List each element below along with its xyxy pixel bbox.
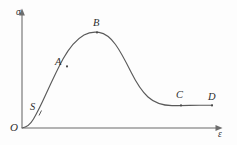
curve-point-label-s: S xyxy=(30,102,35,113)
y-axis-label-sigma: σ xyxy=(16,8,21,18)
point-marker-c xyxy=(180,104,182,106)
origin-label: O xyxy=(10,122,18,133)
curve-point-label-c: C xyxy=(176,90,183,101)
stress-strain-figure: σ ε O S A B C D xyxy=(0,0,237,145)
curve-point-label-d: D xyxy=(208,92,216,103)
x-axis-label-epsilon: ε xyxy=(218,130,222,140)
curve-point-label-b: B xyxy=(93,18,99,29)
plot-canvas xyxy=(0,0,237,145)
point-marker-b xyxy=(96,31,98,33)
point-marker-a xyxy=(66,65,68,67)
stress-strain-curve-path xyxy=(22,32,213,128)
point-marker-d xyxy=(211,104,213,106)
curve-point-label-a: A xyxy=(55,57,61,68)
point-marker-s xyxy=(39,111,42,116)
